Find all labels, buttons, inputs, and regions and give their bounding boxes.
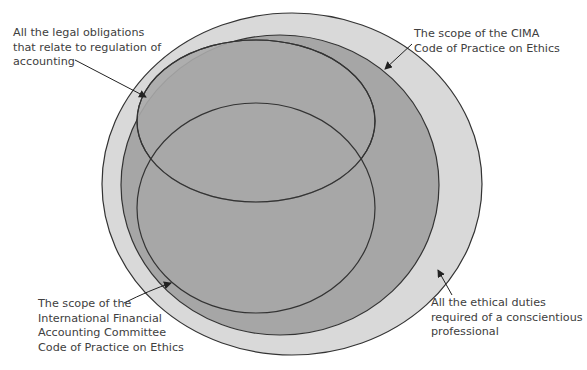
cima-label-line-1: The scope of the CIMA (414, 27, 560, 42)
legal-obligations-label: All the legal obligations that relate to… (13, 26, 161, 70)
ethical-label-line-1: All the ethical duties (431, 296, 583, 311)
ifac-label-line-4: Code of Practice on Ethics (38, 341, 184, 356)
ifac-label-line-2: International Financial (38, 312, 184, 327)
ifac-label-line-1: The scope of the (38, 297, 184, 312)
cima-code-label: The scope of the CIMA Code of Practice o… (414, 27, 560, 56)
ethical-label-line-2: required of a conscientious (431, 311, 583, 326)
legal-label-line-3: accounting (13, 55, 161, 70)
ifac-code-label: The scope of the International Financial… (38, 297, 184, 355)
ethical-duties-label: All the ethical duties required of a con… (431, 296, 583, 340)
legal-label-line-1: All the legal obligations (13, 26, 161, 41)
ifac-code-ellipse (137, 103, 375, 313)
cima-label-line-2: Code of Practice on Ethics (414, 42, 560, 57)
ifac-label-line-3: Accounting Committee (38, 326, 184, 341)
ethical-label-line-3: professional (431, 325, 583, 340)
legal-label-line-2: that relate to regulation of (13, 41, 161, 56)
